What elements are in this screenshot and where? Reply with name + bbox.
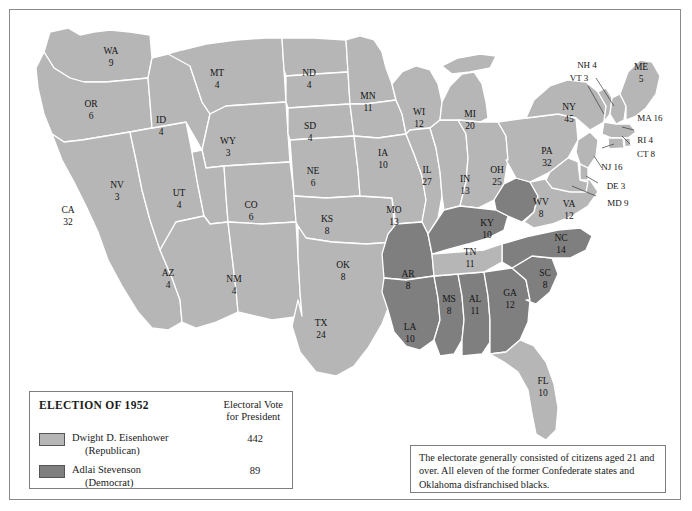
votes-WV: 8 [539,209,544,219]
votes-MT: 4 [215,80,220,90]
label-ND: ND [302,68,316,78]
electoral-vote-header-line1: Electoral Vote [224,399,283,411]
votes-VA: 12 [564,211,574,221]
candidate-republican-party: (Republican) [85,445,227,458]
state-NM[interactable] [228,222,302,320]
label-RI: RI 4 [637,135,653,145]
label-MA: MA 16 [637,113,663,123]
legend-row-democrat[interactable]: Adlai Stevenson (Democrat) 89 [39,464,283,489]
votes-MN: 11 [363,103,372,113]
state-FL[interactable] [490,340,558,440]
label-OK: OK [336,260,350,270]
label-NV: NV [110,180,124,190]
label-CO: CO [244,200,257,210]
state-IA[interactable] [350,100,406,138]
map-frame: WA 9 OR 6 CA 32 NV 3 ID 4 MT 4 WY 3 UT 4… [9,9,681,500]
label-SC: SC [539,268,551,278]
votes-OR: 6 [89,111,94,121]
legend-title: ELECTION OF 1952 [39,399,149,411]
label-FL: FL [537,376,548,386]
votes-KY: 10 [482,230,492,240]
votes-MS: 8 [447,306,452,316]
votes-OH: 25 [492,177,502,187]
state-NJ[interactable] [576,132,598,168]
votes-UT: 4 [177,200,182,210]
electoral-vote-header: Electoral Vote for President [224,399,283,423]
state-KS[interactable] [290,136,360,198]
votes-TX: 24 [316,330,326,340]
votes-GA: 12 [505,300,515,310]
votes-ND: 4 [307,80,312,90]
label-OH: OH [490,165,504,175]
votes-OK: 8 [341,272,346,282]
label-MI: MI [464,109,476,119]
label-WY: WY [220,136,236,146]
votes-SC: 8 [543,280,548,290]
votes-NC: 14 [556,245,566,255]
label-NM: NM [226,274,242,284]
votes-IN: 13 [460,186,470,196]
label-IL: IL [423,165,432,175]
votes-democrat: 89 [227,465,283,476]
label-IN: IN [460,174,470,184]
votes-NV: 3 [115,192,120,202]
label-OR: OR [84,99,98,109]
election-legend: ELECTION OF 1952 Electoral Vote for Pres… [29,391,293,489]
votes-AZ: 4 [166,280,171,290]
label-NE: NE [307,166,320,176]
label-CA: CA [61,205,74,215]
label-MS: MS [442,294,456,304]
label-ME: ME [634,62,648,72]
label-AR: AR [401,269,415,279]
state-OK[interactable] [294,196,396,244]
votes-republican: 442 [227,433,283,444]
label-DE: DE 3 [607,181,626,191]
label-NC: NC [554,233,567,243]
label-LA: LA [404,322,417,332]
state-SD[interactable] [286,72,350,108]
label-ID: ID [156,115,166,125]
state-NE[interactable] [288,104,354,140]
votes-ID: 4 [159,127,164,137]
candidate-democrat-party: (Democrat) [85,477,227,490]
candidate-republican: Dwight D. Eisenhower (Republican) [72,432,227,457]
votes-SD: 4 [308,133,313,143]
votes-IL: 27 [422,177,432,187]
electorate-note: The electorate generally consisted of ci… [410,445,666,493]
swatch-republican-icon [39,433,65,446]
label-AZ: AZ [162,268,175,278]
label-CT: CT 8 [637,149,656,159]
votes-ME: 5 [639,74,644,84]
label-KY: KY [480,218,494,228]
votes-LA: 10 [405,334,415,344]
label-VA: VA [563,199,576,209]
label-MN: MN [360,91,375,101]
candidate-democrat-name: Adlai Stevenson [72,464,141,475]
label-WA: WA [104,46,119,56]
swatch-democrat-icon [39,465,65,478]
state-WY[interactable] [202,102,290,168]
state-MA[interactable] [602,122,636,138]
votes-WI: 12 [414,119,424,129]
votes-PA: 32 [542,158,552,168]
label-MO: MO [386,205,401,215]
state-CT[interactable] [608,138,624,149]
votes-TN: 11 [465,259,474,269]
votes-IA: 10 [378,160,388,170]
label-NH: NH 4 [577,60,597,70]
label-MT: MT [210,68,224,78]
label-TN: TN [464,247,477,257]
votes-CO: 6 [249,212,254,222]
label-TX: TX [315,318,328,328]
state-TX[interactable] [292,226,398,376]
state-CO[interactable] [224,162,296,224]
votes-MO: 13 [389,217,399,227]
label-WV: WV [533,197,549,207]
legend-row-republican[interactable]: Dwight D. Eisenhower (Republican) 442 [39,432,283,457]
map-canvas: WA 9 OR 6 CA 32 NV 3 ID 4 MT 4 WY 3 UT 4… [10,10,680,499]
votes-AL: 11 [470,306,479,316]
label-PA: PA [541,146,552,156]
votes-CA: 32 [63,217,73,227]
candidate-democrat: Adlai Stevenson (Democrat) [72,464,227,489]
label-AL: AL [469,294,482,304]
